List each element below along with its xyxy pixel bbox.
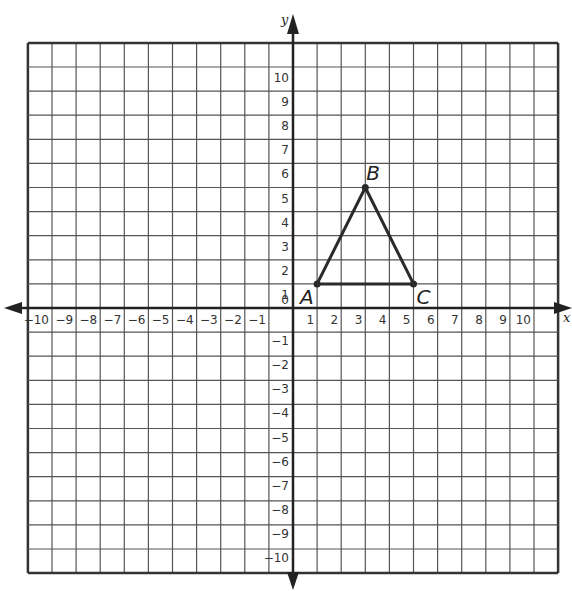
y-tick-label: −1	[271, 334, 289, 348]
x-tick-label: −8	[79, 313, 97, 327]
x-tick-label: 7	[451, 313, 459, 327]
y-tick-label: 10	[274, 71, 289, 85]
x-tick-label: −9	[55, 313, 73, 327]
y-tick-label: 6	[281, 167, 289, 181]
x-tick-label: 1	[306, 313, 314, 327]
y-tick-label: −2	[271, 358, 289, 372]
y-tick-label: 9	[281, 95, 289, 109]
y-tick-label: 4	[281, 216, 289, 230]
y-tick-label: 2	[281, 264, 289, 278]
y-tick-label: −9	[271, 527, 289, 541]
x-axis-label: x	[563, 310, 571, 325]
y-tick-label: 3	[281, 240, 289, 254]
vertex-label-a: A	[298, 285, 314, 309]
y-tick-label: −10	[264, 551, 289, 565]
y-tick-label: −4	[271, 406, 289, 420]
x-tick-label: −7	[104, 313, 122, 327]
y-tick-label: −6	[271, 455, 289, 469]
y-axis-up-arrow-icon	[287, 14, 299, 34]
y-axis-down-arrow-icon	[287, 572, 299, 590]
y-tick-label: 5	[281, 192, 289, 206]
y-tick-label: −3	[271, 382, 289, 396]
vertex-label-b: B	[366, 161, 380, 185]
x-tick-label: −4	[176, 313, 194, 327]
x-axis-left-arrow-icon	[4, 302, 22, 314]
x-tick-label: 4	[379, 313, 387, 327]
x-tick-label: 3	[355, 313, 363, 327]
y-tick-label: −8	[271, 503, 289, 517]
y-tick-label: 7	[281, 143, 289, 157]
x-tick-label: 5	[403, 313, 411, 327]
x-tick-label: 9	[499, 313, 507, 327]
x-tick-label: 10	[516, 313, 531, 327]
x-tick-label: 8	[475, 313, 483, 327]
y-tick-label: 0	[281, 293, 289, 307]
vertex-point-a	[314, 280, 321, 287]
y-axis-label: y	[280, 12, 289, 27]
triangle-abc: ABC	[298, 161, 430, 309]
x-tick-label: 6	[427, 313, 435, 327]
vertex-label-c: C	[417, 285, 431, 309]
x-tick-label: −1	[248, 313, 266, 327]
y-tick-label: 8	[281, 119, 289, 133]
vertex-point-b	[362, 184, 369, 191]
y-tick-label: −5	[271, 431, 289, 445]
x-tick-label: −2	[224, 313, 242, 327]
coordinate-plane: −10−9−8−7−6−5−4−3−2−11234567891010987654…	[0, 0, 572, 591]
x-tick-label: −10	[24, 313, 49, 327]
x-tick-label: −3	[200, 313, 218, 327]
x-tick-label: 2	[331, 313, 339, 327]
y-tick-label: −7	[271, 479, 289, 493]
x-tick-label: −6	[128, 313, 146, 327]
x-tick-label: −5	[152, 313, 170, 327]
